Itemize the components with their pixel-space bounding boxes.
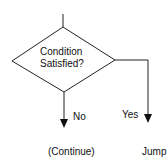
no-arrowhead-icon [60,119,68,128]
yes-branch-target: Jump [142,146,167,157]
no-branch-label: No [73,111,86,122]
no-branch-target: (Continue) [48,146,95,157]
decision-text-line2: Satisfied? [40,58,84,69]
yes-arrowhead-icon [144,114,152,123]
decision-text-line1: Condition [40,46,82,57]
flowchart-svg: Condition Satisfied? No (Continue) Yes J… [0,0,168,163]
yes-branch-connector [115,60,148,116]
flowchart-canvas: Condition Satisfied? No (Continue) Yes J… [0,0,168,163]
yes-branch-label: Yes [122,109,138,120]
